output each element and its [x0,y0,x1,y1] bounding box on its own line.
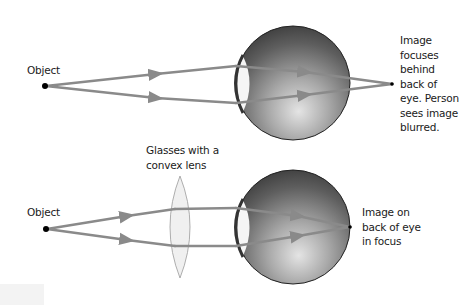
result-label-top-line: sees image [400,106,459,121]
result-label-bottom-line: back of eye [362,220,421,235]
result-label-top-line: blurred. [400,120,459,135]
result-label-top: Image focuses behind back of eye. Person… [400,33,459,135]
result-label-top-line: Image [400,33,459,48]
result-label-top-line: behind [400,62,459,77]
lens-label-line: Glasses with a [146,143,219,158]
result-label-top-line: eye. Person [400,91,459,106]
eyeball-top [236,26,351,140]
result-label-bottom-line: in focus [362,234,421,249]
result-label-bottom: Image on back of eye in focus [362,205,421,249]
corner-background-block [0,284,44,305]
lens-label-line: convex lens [146,158,219,173]
result-label-top-line: focuses [400,48,459,63]
result-label-bottom-line: Image on [362,205,421,220]
result-label-top-line: back of [400,77,459,92]
optics-diagram [0,0,469,305]
convex-lens [170,176,190,278]
eyeball-bottom [236,170,351,284]
object-point-top [42,83,48,89]
focus-point-top [390,82,394,86]
object-label-bottom: Object [27,205,60,220]
focus-point-bottom [348,225,352,229]
bottom-panel [43,170,352,284]
lens-label: Glasses with a convex lens [146,143,219,172]
object-point-bottom [43,226,49,232]
top-panel [42,26,394,140]
object-label-top: Object [27,63,60,78]
